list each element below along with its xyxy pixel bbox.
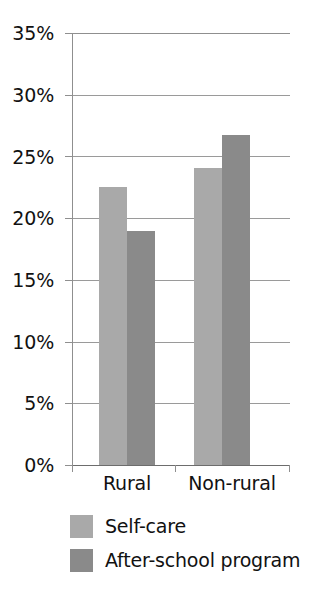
gridline-30: [72, 95, 290, 96]
y-tick-label-20: 20%: [0, 209, 54, 228]
legend-label-after-school-program: After-school program: [105, 549, 300, 571]
x-category-label-non-rural: Non-rural: [177, 473, 287, 493]
x-axis-tick-middle: [175, 465, 176, 472]
bar-rural-after-school-program: [127, 231, 155, 466]
legend: Self-care After-school program: [70, 509, 300, 577]
y-tick-20: [65, 218, 72, 219]
bar-non-rural-self-care: [194, 168, 222, 465]
legend-swatch-self-care: [70, 515, 93, 538]
x-axis-line: [72, 465, 290, 466]
y-tick-label-10: 10%: [0, 333, 54, 352]
y-tick-25: [65, 156, 72, 157]
y-tick-label-15: 15%: [0, 271, 54, 290]
gridline-25: [72, 156, 290, 157]
y-tick-label-25: 25%: [0, 148, 54, 167]
y-tick-label-0: 0%: [0, 456, 54, 475]
legend-item-self-care: Self-care: [70, 509, 300, 543]
y-tick-label-30: 30%: [0, 86, 54, 105]
y-tick-label-35: 35%: [0, 24, 54, 43]
y-tick-0: [65, 465, 72, 466]
y-tick-5: [65, 403, 72, 404]
gridline-35: [72, 33, 290, 34]
y-tick-15: [65, 280, 72, 281]
legend-label-self-care: Self-care: [105, 515, 186, 537]
bar-chart: 35% 30% 25% 20% 15% 10% 5% 0% Rural: [0, 0, 312, 598]
y-tick-35: [65, 33, 72, 34]
y-tick-30: [65, 95, 72, 96]
bar-rural-self-care: [99, 187, 127, 465]
x-category-label-rural: Rural: [79, 473, 175, 493]
legend-swatch-after-school-program: [70, 549, 93, 572]
y-tick-10: [65, 342, 72, 343]
y-axis-line: [72, 33, 73, 465]
legend-item-after-school-program: After-school program: [70, 543, 300, 577]
x-axis-tick-end: [289, 465, 290, 472]
plot-area: Rural Non-rural: [72, 33, 290, 465]
y-tick-label-5: 5%: [0, 394, 54, 413]
x-axis-tick-start: [72, 465, 73, 472]
bar-non-rural-after-school-program: [222, 135, 250, 465]
